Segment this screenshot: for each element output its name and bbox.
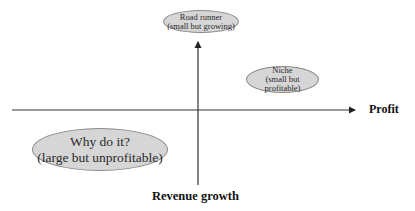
why-do-it-title: Why do it?: [70, 134, 130, 150]
quadrant-why-do-it: Why do it? (large but unprofitable): [32, 128, 168, 171]
quadrant-niche: Niche (small but profitable): [246, 66, 319, 93]
profit-axis-label: Profit: [369, 102, 399, 117]
quadrant-road-runner: Road runner (small but growing): [163, 10, 239, 33]
niche-subtitle: (small but profitable): [247, 75, 318, 93]
revenue-growth-axis-label: Revenue growth: [152, 189, 239, 204]
quadrant-diagram: Road runner (small but growing) Niche (s…: [0, 0, 415, 211]
why-do-it-subtitle: (large but unprofitable): [37, 150, 163, 166]
road-runner-subtitle: (small but growing): [167, 22, 235, 31]
